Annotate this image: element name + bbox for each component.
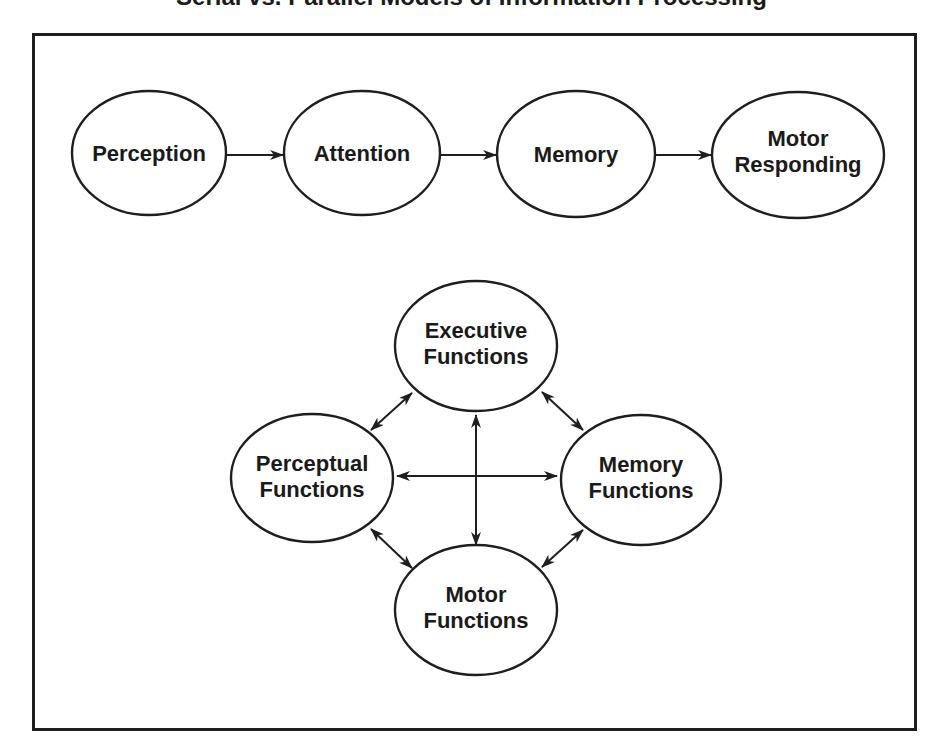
node-attention: Attention [284, 91, 440, 215]
node-label: Perception [92, 141, 206, 166]
node-label-line-2: Functions [588, 478, 693, 503]
parallel-model: Executive Functions Perceptual Functions… [231, 281, 721, 675]
node-label-line-1: Memory [599, 452, 684, 477]
arrow-perceptual-motor [371, 529, 412, 568]
node-label-line-2: Functions [423, 608, 528, 633]
node-label-line-1: Motor [767, 126, 829, 151]
diagram-canvas: Serial vs. Parallel Models of Informatio… [0, 0, 943, 750]
serial-model: Perception Attention Memory Motor Respon… [72, 91, 884, 218]
node-label-line-2: Functions [259, 477, 364, 502]
node-motor-responding: Motor Responding [712, 92, 884, 218]
node-label-line-1: Executive [425, 318, 528, 343]
node-label: Memory [534, 142, 619, 167]
arrow-executive-memory [542, 392, 583, 430]
diagram-svg: Perception Attention Memory Motor Respon… [0, 0, 943, 750]
node-perception: Perception [72, 91, 226, 215]
node-motor-functions: Motor Functions [395, 545, 557, 675]
node-memory-functions: Memory Functions [561, 415, 721, 545]
arrow-executive-perceptual [371, 393, 412, 430]
arrow-memory-motor [542, 530, 583, 567]
node-memory: Memory [497, 91, 655, 217]
node-label-line-1: Motor [445, 582, 507, 607]
node-perceptual-functions: Perceptual Functions [231, 414, 393, 542]
node-label: Attention [314, 141, 411, 166]
node-label-line-2: Functions [423, 344, 528, 369]
node-label-line-1: Perceptual [256, 451, 369, 476]
node-executive-functions: Executive Functions [395, 281, 557, 411]
node-label-line-2: Responding [734, 152, 861, 177]
